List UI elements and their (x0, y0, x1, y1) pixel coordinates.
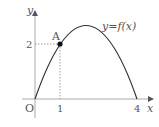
function-curve (35, 26, 137, 100)
curve-label: y=f(x) (101, 20, 136, 33)
x-axis-label: x (147, 102, 154, 115)
x-tick-1: 1 (57, 103, 63, 114)
y-axis-label: y (26, 4, 34, 17)
y-tick-2: 2 (26, 39, 32, 50)
function-graph: y A 2 O 1 4 x y=f(x) (0, 0, 159, 127)
origin-label: O (25, 102, 34, 115)
x-tick-4: 4 (134, 103, 140, 114)
point-a-label: A (51, 30, 61, 43)
